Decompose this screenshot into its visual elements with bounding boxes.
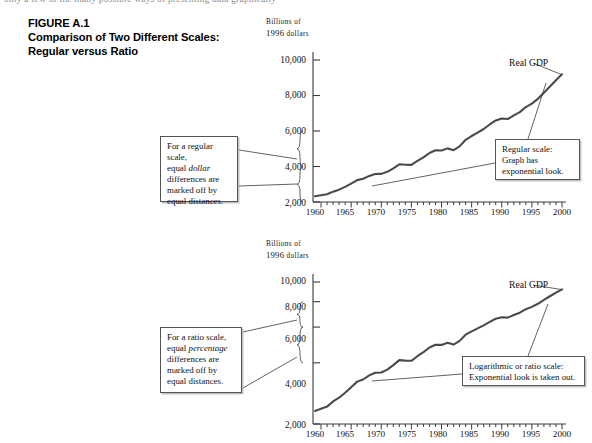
callout-top-left-emph: dollar — [188, 163, 210, 173]
plot-area-logarithmic — [0, 222, 592, 443]
callout-ratio-scale-right: Logarithmic or ratio scale: Exponential … — [462, 356, 585, 386]
callout-top-left-line2a: equal — [167, 163, 188, 173]
callout-top-left-line4: marked off by — [167, 185, 217, 195]
callout-top-left-line3: differences are — [167, 174, 219, 184]
callout-top-right-line3: exponential look. — [502, 166, 564, 176]
callout-bottom-left-line2a: equal — [167, 343, 188, 353]
callout-top-right-line1: Regular scale: — [502, 144, 553, 154]
callout-bottom-left-line1: For a ratio scale, — [167, 332, 226, 342]
callout-bottom-left-line5: equal distances. — [167, 376, 223, 386]
callout-bottom-right-line2: Exponential look is taken out. — [469, 372, 575, 382]
callout-top-left-line1: For a regular scale, — [167, 141, 213, 162]
callout-bottom-left-line3: differences are — [167, 354, 219, 364]
callout-bottom-right-line1: Logarithmic or ratio scale: — [469, 361, 563, 371]
figure-page: only a few of the many possible ways of … — [0, 0, 592, 443]
callout-regular-scale-left: For a regular scale, equal dollar differ… — [160, 136, 238, 202]
callout-ratio-scale-left: For a ratio scale, equal percentage diff… — [160, 327, 242, 393]
callout-regular-scale-right: Regular scale: Graph has exponential loo… — [495, 139, 580, 180]
series-label-bottom: Real GDP — [509, 279, 548, 290]
callout-top-right-line2: Graph has — [502, 155, 538, 165]
chart-panel-logarithmic: Billions of 1996 dollars 10,000 8,000 6,… — [0, 222, 592, 443]
chart-panel-linear: Billions of 1996 dollars 10,000 8,000 6,… — [0, 0, 592, 221]
callout-bottom-left-emph: percentage — [188, 343, 227, 353]
callout-bottom-left-line4: marked off by — [167, 365, 217, 375]
series-label-top: Real GDP — [509, 57, 548, 68]
callout-top-left-line5: equal distances. — [167, 196, 223, 206]
plot-area-linear — [0, 0, 592, 221]
